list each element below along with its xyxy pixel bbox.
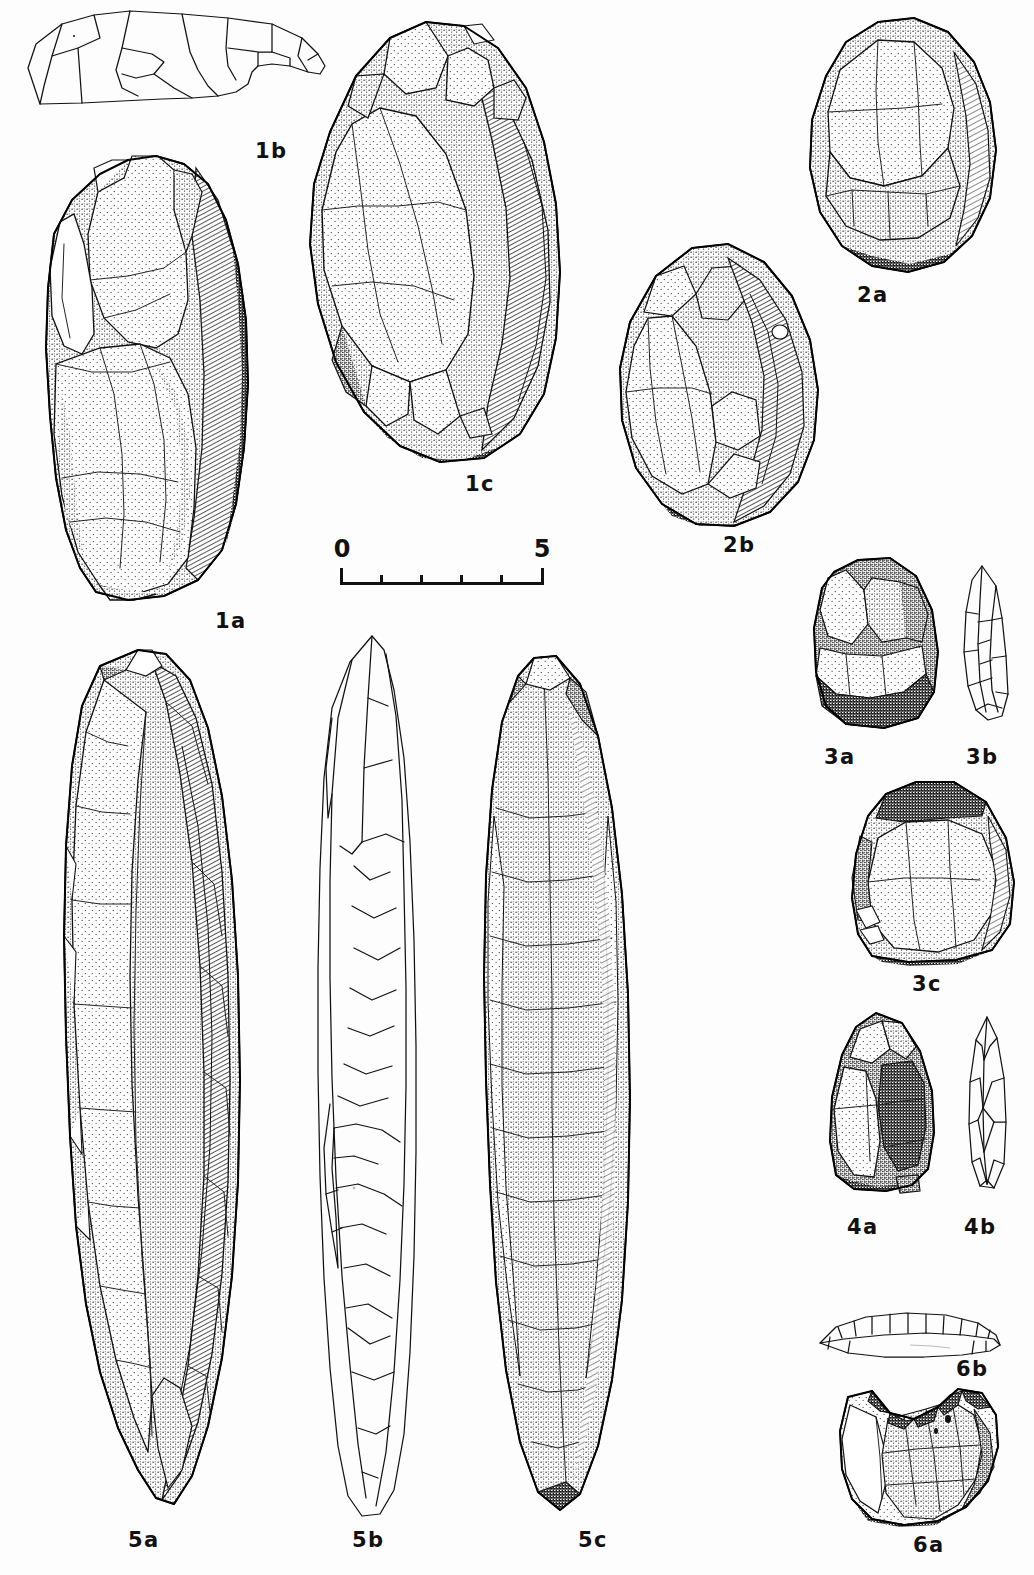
lithic-illustration-plate: 1b bbox=[0, 0, 1034, 1575]
figure-label-6a: 6a bbox=[913, 1533, 945, 1557]
scale-tick-2 bbox=[420, 575, 423, 585]
figure-2b bbox=[600, 236, 835, 531]
figure-5b bbox=[300, 628, 438, 1523]
figure-label-5b: 5b bbox=[352, 1528, 385, 1552]
scale-bar-baseline bbox=[340, 582, 544, 585]
figure-label-4b: 4b bbox=[964, 1215, 997, 1239]
figure-label-3b: 3b bbox=[966, 745, 999, 769]
scale-label-start: 0 bbox=[334, 535, 351, 563]
figure-label-5c: 5c bbox=[578, 1528, 608, 1552]
figure-6a bbox=[830, 1375, 1010, 1527]
figure-4b bbox=[962, 1012, 1012, 1195]
figure-label-3c: 3c bbox=[912, 972, 942, 996]
figure-4a bbox=[820, 1005, 948, 1195]
figure-label-2a: 2a bbox=[857, 283, 889, 307]
figure-label-2b: 2b bbox=[723, 533, 756, 557]
scale-tick-5 bbox=[541, 568, 544, 585]
scale-label-end: 5 bbox=[534, 535, 551, 563]
figure-label-1c: 1c bbox=[465, 472, 495, 496]
figure-label-1a: 1a bbox=[215, 609, 247, 633]
scale-tick-3 bbox=[460, 575, 463, 585]
figure-label-4a: 4a bbox=[847, 1215, 879, 1239]
figure-label-3a: 3a bbox=[824, 745, 856, 769]
figure-1a bbox=[36, 148, 268, 603]
figure-1c bbox=[288, 14, 580, 469]
figure-3a bbox=[806, 548, 946, 733]
scale-tick-1 bbox=[380, 575, 383, 585]
figure-label-5a: 5a bbox=[128, 1528, 160, 1552]
scale-tick-0 bbox=[340, 568, 343, 585]
figure-5a bbox=[42, 636, 260, 1516]
scale-bar: 0 5 bbox=[340, 553, 544, 585]
figure-5c bbox=[470, 636, 650, 1516]
scale-tick-4 bbox=[500, 575, 503, 585]
figure-3b bbox=[952, 560, 1014, 730]
figure-3c bbox=[838, 772, 1020, 967]
